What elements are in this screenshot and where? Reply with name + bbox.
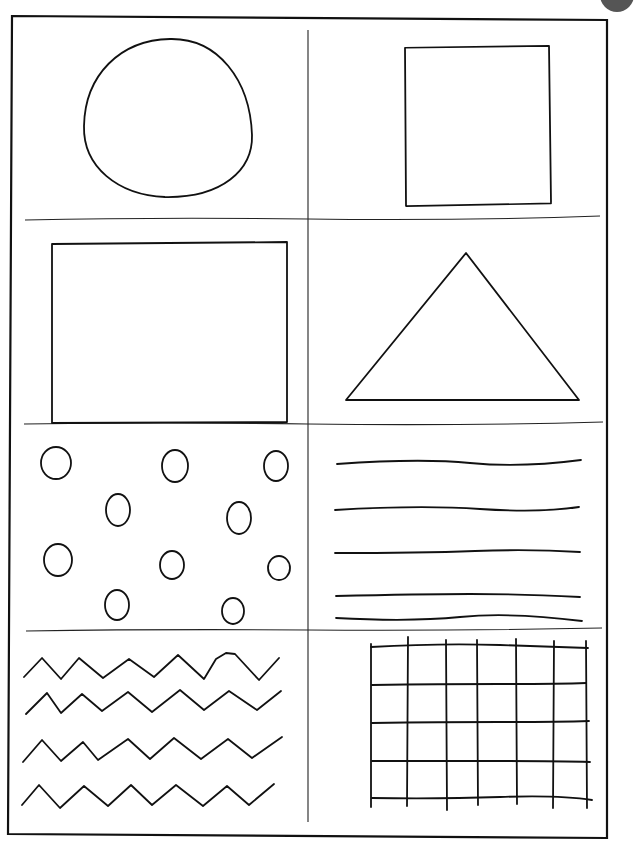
horizontal-divider-3 — [26, 628, 602, 631]
grid-col-line — [407, 637, 408, 806]
dot — [41, 447, 71, 479]
triangle-shape — [346, 253, 579, 400]
line-3 — [335, 550, 580, 553]
line-5 — [336, 615, 582, 621]
panel-triangle — [346, 253, 579, 400]
grid-col-line — [516, 639, 517, 804]
panel-lines — [335, 460, 582, 621]
dot — [105, 590, 129, 620]
dot — [222, 598, 244, 624]
grid-row-line — [372, 721, 589, 723]
horizontal-divider-1 — [25, 216, 600, 220]
zigzag-4 — [22, 784, 274, 808]
panel-zigzags — [22, 653, 282, 808]
line-2 — [335, 507, 579, 511]
grid-row-line — [372, 796, 592, 800]
dot — [44, 544, 72, 576]
circle-shape — [84, 39, 252, 197]
square-shape — [405, 46, 551, 206]
zigzag-1 — [24, 653, 279, 680]
rectangle-shape — [52, 242, 287, 423]
grid-col-line — [586, 641, 587, 808]
grid-col-line — [477, 640, 478, 805]
grid-row-line — [372, 761, 590, 762]
line-4 — [336, 594, 580, 597]
dot — [106, 494, 130, 526]
panel-square — [405, 46, 551, 206]
panel-dots — [41, 447, 290, 624]
dot — [227, 502, 251, 534]
grid-row-line — [371, 644, 588, 648]
dot — [160, 551, 184, 579]
panel-rectangle — [52, 242, 287, 423]
dot — [162, 450, 188, 482]
grid-col-line — [553, 641, 554, 808]
grid-col-line — [446, 640, 447, 810]
panel-grid — [371, 637, 592, 810]
zigzag-3 — [23, 737, 282, 762]
dot — [264, 451, 288, 481]
panel-circle — [84, 39, 252, 197]
line-1 — [337, 460, 581, 465]
dot — [268, 556, 290, 580]
zigzag-2 — [26, 690, 281, 714]
